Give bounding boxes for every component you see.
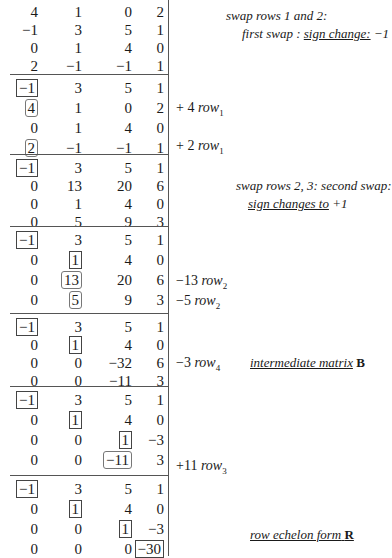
matrix-entry: −1	[0, 481, 38, 497]
note-swap-1-sign: first swap : sign change: −1	[242, 26, 389, 42]
matrix-entry: 0	[126, 196, 164, 212]
matrix-entry: 3	[44, 319, 82, 335]
note-underlined: row echelon form R	[250, 527, 354, 542]
matrix-entry: 0	[0, 292, 38, 308]
matrix-entry: 1	[126, 80, 164, 96]
matrix-entry: 0	[0, 355, 38, 371]
step-separator	[10, 154, 168, 155]
matrix-entry: 0	[0, 432, 38, 448]
matrix-entry: 0	[0, 541, 38, 557]
matrix-entry: 1	[126, 160, 164, 176]
matrix-entry: 2	[0, 58, 38, 74]
matrix-entry: −1	[0, 392, 38, 408]
note-text: first swap :	[242, 26, 304, 41]
matrix-entry: 1	[44, 196, 82, 212]
matrix-entry: 3	[44, 80, 82, 96]
matrix-entry: 4	[0, 4, 38, 20]
note-underlined: sign changes to	[248, 196, 329, 211]
matrix-entry: 0	[0, 40, 38, 56]
matrix-entry: 3	[126, 214, 164, 230]
augment-divider-line	[168, 0, 169, 556]
step-separator	[10, 313, 168, 314]
row-operation-label: −3 row4	[176, 355, 220, 376]
matrix-entry: 3	[44, 481, 82, 497]
matrix-entry: 0	[0, 521, 38, 537]
matrix-entry: 1	[126, 22, 164, 38]
matrix-entry: 3	[44, 160, 82, 176]
matrix-entry: 0	[44, 452, 82, 468]
matrix-entry: 0	[126, 337, 164, 353]
note-swap-2-title: swap rows 2, 3: second swap:	[236, 178, 392, 194]
matrix-entry: 3	[44, 22, 82, 38]
matrix-entry: 2	[126, 4, 164, 20]
matrix-entry: 0	[0, 196, 38, 212]
matrix-entry: 0	[126, 252, 164, 268]
matrix-entry: 0	[44, 355, 82, 371]
matrix-entry: 0	[44, 541, 82, 557]
matrix-entry: 0	[0, 501, 38, 517]
matrix-entry: 0	[0, 178, 38, 194]
matrix-entry: −30	[126, 541, 164, 557]
matrix-entry: 1	[126, 58, 164, 74]
row-operation-label: + 4 row1	[176, 100, 224, 121]
matrix-entry: 6	[126, 355, 164, 371]
note-underlined: sign change:	[304, 26, 371, 41]
matrix-entry: 3	[126, 292, 164, 308]
row-operation-label: −13 row2	[176, 273, 227, 294]
matrix-entry: −3	[126, 432, 164, 448]
matrix-entry: 3	[44, 392, 82, 408]
note-row-echelon-form: row echelon form R	[250, 527, 354, 543]
matrix-entry: 4	[0, 100, 38, 116]
matrix-entry: 1	[44, 4, 82, 20]
matrix-entry: −1	[0, 22, 38, 38]
note-intermediate-matrix: intermediate matrix B	[250, 355, 365, 371]
matrix-entry: 1	[44, 100, 82, 116]
matrix-entry: 1	[126, 392, 164, 408]
note-text: +1	[329, 196, 348, 211]
matrix-entry: 0	[126, 412, 164, 428]
matrix-entry: 13	[44, 178, 82, 194]
matrix-entry: 0	[0, 252, 38, 268]
matrix-entry: 0	[0, 272, 38, 288]
matrix-entry: 0	[0, 337, 38, 353]
matrix-entry: 1	[44, 337, 82, 353]
matrix-entry: 1	[44, 252, 82, 268]
matrix-entry: 0	[126, 501, 164, 517]
matrix-entry: 1	[44, 412, 82, 428]
matrix-entry: 0	[126, 40, 164, 56]
matrix-entry: −1	[0, 232, 38, 248]
matrix-entry: 0	[126, 120, 164, 136]
matrix-name: R	[344, 527, 353, 542]
matrix-entry: 1	[126, 232, 164, 248]
row-operation-label: −5 row2	[176, 293, 220, 314]
matrix-entry: 1	[126, 319, 164, 335]
matrix-entry: 0	[44, 432, 82, 448]
matrix-entry: 6	[126, 178, 164, 194]
note-underlined: intermediate matrix	[250, 355, 353, 370]
step-separator	[10, 226, 168, 227]
matrix-entry: 13	[44, 272, 82, 288]
matrix-entry: −1	[0, 160, 38, 176]
row-operation-label: +11 row3	[176, 458, 227, 479]
matrix-entry: 6	[126, 272, 164, 288]
matrix-entry: −3	[126, 521, 164, 537]
matrix-entry: 5	[44, 214, 82, 230]
note-swap-2-sign: sign changes to +1	[248, 196, 347, 212]
matrix-entry: 1	[44, 40, 82, 56]
matrix-entry: 0	[0, 452, 38, 468]
note-text: −1	[371, 26, 390, 41]
matrix-entry: 2	[126, 100, 164, 116]
matrix-entry: 0	[44, 521, 82, 537]
matrix-entry: 3	[44, 232, 82, 248]
note-swap-1-title: swap rows 1 and 2:	[226, 8, 327, 24]
matrix-entry: 5	[44, 292, 82, 308]
row-operation-label: + 2 row1	[176, 138, 224, 159]
step-separator	[10, 386, 168, 387]
matrix-entry: −1	[44, 58, 82, 74]
matrix-entry: 1	[126, 481, 164, 497]
step-separator	[10, 74, 168, 75]
matrix-entry: 3	[126, 452, 164, 468]
matrix-entry: 1	[44, 501, 82, 517]
matrix-entry: 0	[0, 214, 38, 230]
matrix-entry: 0	[0, 120, 38, 136]
